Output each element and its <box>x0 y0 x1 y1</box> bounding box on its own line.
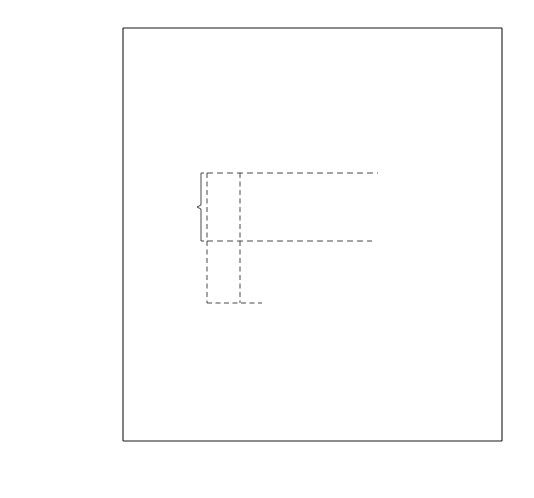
plot-frame <box>123 28 502 441</box>
chart-svg <box>0 0 534 498</box>
probable-deviation-brace <box>197 173 204 241</box>
annotation-layer <box>197 173 378 303</box>
probability-plot-figure <box>0 0 534 498</box>
